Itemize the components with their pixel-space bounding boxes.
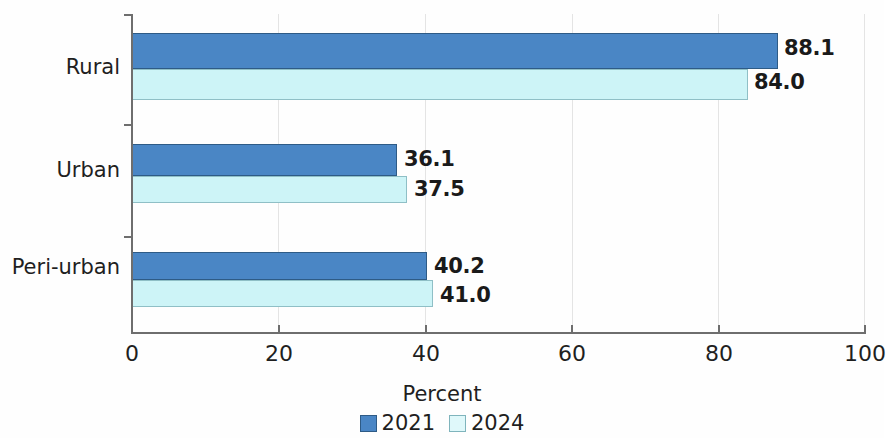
category-label-urban: Urban	[0, 158, 120, 182]
bar-periurban-2021	[132, 252, 427, 280]
legend-entry-2021[interactable]: 2021	[360, 411, 435, 435]
value-label-rural-2021: 88.1	[784, 36, 835, 60]
plot-area: 88.1 84.0 36.1 37.5 40.2 41.0	[132, 14, 865, 333]
x-axis-tick-label-60: 60	[558, 341, 586, 366]
x-axis-tick-label-80: 80	[705, 341, 733, 366]
category-label-rural: Rural	[0, 55, 120, 79]
value-label-urban-2024: 37.5	[414, 177, 465, 201]
x-tick-0	[131, 325, 133, 334]
category-label-peri-urban: Peri-urban	[0, 255, 120, 279]
x-axis-tick-label-40: 40	[412, 341, 440, 366]
legend-swatch-2021	[360, 415, 377, 432]
value-label-rural-2024: 84.0	[754, 70, 805, 94]
y-tick-rural-urban	[124, 124, 132, 126]
y-tick-urban-periurban	[124, 236, 132, 238]
legend-swatch-2024	[449, 415, 466, 432]
legend-label-2021: 2021	[382, 411, 435, 435]
gridline-100	[864, 14, 865, 333]
x-axis-title: Percent	[0, 382, 884, 406]
bar-urban-2024	[132, 176, 407, 203]
value-label-periurban-2024: 41.0	[440, 283, 491, 307]
y-tick-top	[124, 14, 132, 16]
bar-periurban-2024	[132, 280, 433, 307]
x-axis-line	[131, 332, 866, 334]
x-tick-20	[278, 325, 280, 334]
x-axis-tick-label-0: 0	[125, 341, 139, 366]
bar-rural-2024	[132, 69, 748, 100]
legend: 2021 2024	[0, 411, 884, 435]
x-tick-80	[718, 325, 720, 334]
legend-entry-2024[interactable]: 2024	[449, 411, 524, 435]
x-tick-60	[571, 325, 573, 334]
x-axis-tick-label-20: 20	[265, 341, 293, 366]
x-tick-100	[864, 325, 866, 334]
legend-label-2024: 2024	[471, 411, 524, 435]
x-axis-tick-label-100: 100	[844, 341, 886, 366]
y-axis-line	[131, 14, 133, 333]
value-label-urban-2021: 36.1	[404, 147, 455, 171]
bar-urban-2021	[132, 144, 397, 176]
value-label-periurban-2021: 40.2	[434, 254, 485, 278]
x-tick-40	[425, 325, 427, 334]
bar-rural-2021	[132, 33, 778, 69]
